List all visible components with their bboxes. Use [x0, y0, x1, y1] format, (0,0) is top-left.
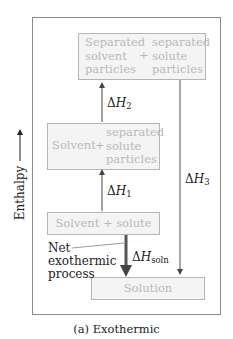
figure-caption: (a) Exothermic — [0, 322, 233, 336]
dh2-label: ΔH2 — [107, 96, 132, 111]
dh1-label: ΔH1 — [107, 184, 132, 199]
enthalpy-axis: Enthalpy — [0, 128, 40, 218]
enthalpy-label: Enthalpy — [13, 163, 27, 223]
net-exothermic-annotation: Net exothermic process — [48, 242, 116, 281]
dh3-label: ΔH3 — [185, 172, 210, 187]
dhsoln-label: ΔHsoln — [132, 250, 169, 265]
